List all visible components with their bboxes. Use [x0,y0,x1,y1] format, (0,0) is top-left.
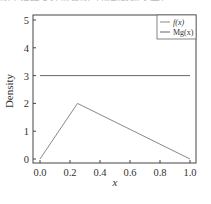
y-axis: 012345 [24,15,36,165]
y-axis-label: Density [3,73,15,108]
y-tick-label: 5 [24,15,29,26]
x-tick-label: 0.0 [33,167,46,178]
x-tick-label: 0.4 [93,167,107,178]
x-tick-label: 0.2 [63,167,76,178]
y-tick-label: 1 [24,126,29,137]
x-tick-label: 1.0 [183,167,196,178]
legend-label: Mg(x) [173,28,194,37]
y-tick-label: 2 [24,98,29,109]
y-tick-label: 0 [24,154,29,165]
y-tick-label: 4 [24,43,30,54]
series-line-0 [40,103,190,159]
legend: f(x)Mg(x) [157,15,196,39]
x-tick-label: 0.8 [153,167,166,178]
series-lines [40,76,190,159]
legend-label: f(x) [173,18,184,27]
x-axis-label: x [112,176,118,188]
y-tick-label: 3 [24,71,29,82]
x-tick-label: 0.6 [123,167,136,178]
density-chart: 012345 0.00.20.40.60.81.0 Density x f(x)… [0,0,211,204]
